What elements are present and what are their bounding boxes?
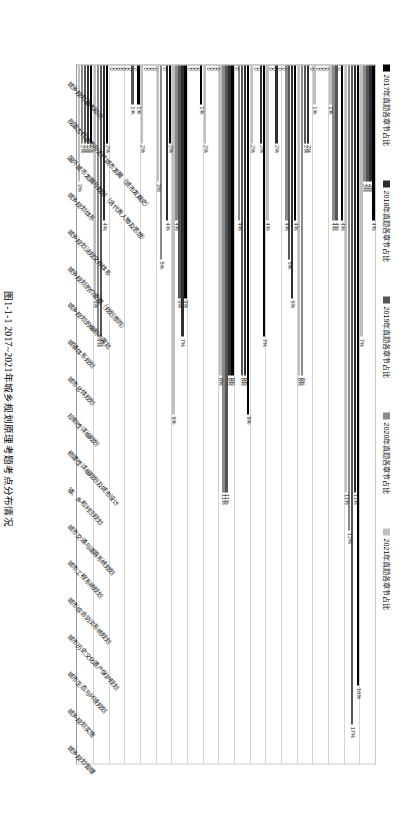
chart-legend: 2017年真题各章节占比2018年真题各章节占比2019年真题各章节占比2020… bbox=[376, 64, 398, 764]
bar bbox=[263, 65, 265, 336]
bar-group: 1%0000 bbox=[187, 65, 203, 763]
legend-swatch-icon bbox=[384, 296, 391, 303]
bar-row: 2% bbox=[204, 65, 206, 763]
legend-label: 2019年真题各章节占比 bbox=[382, 306, 392, 378]
bar-value-label: 2% bbox=[167, 145, 173, 153]
bar-row: 0 bbox=[197, 65, 199, 763]
bar-row: 0 bbox=[122, 65, 124, 763]
bar-group: 7%2%002% bbox=[250, 65, 266, 763]
rotated-figure-frame: 2017年真题各章节占比2018年真题各章节占比2019年真题各章节占比2020… bbox=[0, 0, 402, 817]
bar-value-label: 5% bbox=[287, 261, 293, 269]
bar-row: 7% bbox=[97, 65, 99, 763]
bar-row: 4% bbox=[294, 65, 296, 763]
bar-value-label: 8% bbox=[218, 377, 224, 385]
bar bbox=[313, 65, 315, 104]
bar-row: 4% bbox=[335, 65, 337, 763]
bar-value-label: 2% bbox=[258, 145, 264, 153]
bar-row: 0 bbox=[153, 65, 155, 763]
bar bbox=[348, 65, 350, 530]
bar-row: 3% bbox=[157, 65, 159, 763]
bar-row: 9% bbox=[172, 65, 174, 763]
legend-item: 2019年真题各章节占比 bbox=[382, 296, 392, 378]
legend-swatch-icon bbox=[384, 180, 391, 187]
bar-row: 0 bbox=[194, 65, 196, 763]
bar-value-label: 2% bbox=[140, 145, 146, 153]
bar bbox=[175, 65, 177, 220]
bar bbox=[363, 65, 365, 181]
bar bbox=[106, 65, 108, 143]
bar-value-label: 1% bbox=[328, 106, 334, 114]
bar-row: 11% bbox=[225, 65, 227, 763]
bar bbox=[166, 65, 168, 220]
bar-value-label: 2% bbox=[274, 145, 280, 153]
bar-row: 0 bbox=[147, 65, 149, 763]
bar-row: 5% bbox=[160, 65, 162, 763]
bar bbox=[169, 65, 171, 143]
bar-value-label: 4% bbox=[102, 222, 108, 230]
bar bbox=[298, 65, 300, 375]
bar bbox=[335, 65, 337, 220]
bar-value-label: 0 bbox=[161, 67, 167, 70]
bar-row: 12% bbox=[348, 65, 350, 763]
plot-area: 4%3%3%3%7%16%11%17%12%11%4%04%4%1%00001%… bbox=[76, 64, 376, 764]
bar-row: 7% bbox=[181, 65, 183, 763]
bar-value-label: 4% bbox=[174, 222, 180, 230]
bar-value-label: 17% bbox=[349, 726, 355, 737]
bar-row: 0 bbox=[191, 65, 193, 763]
bar-row: 8% bbox=[241, 65, 243, 763]
bar bbox=[225, 65, 227, 492]
category-axis-labels: 城乡规划基本知识我国古代城市与近代城市发展（城市发展史）国外城市发展与规划（含代… bbox=[6, 64, 76, 764]
bar-row: 0 bbox=[338, 65, 340, 763]
bar-row: 0 bbox=[316, 65, 318, 763]
bar-group: 02%2%8%8% bbox=[297, 65, 313, 763]
bar-row: 11% bbox=[354, 65, 356, 763]
bar-row: 2% bbox=[307, 65, 309, 763]
bar-group: 9%8%8%4%0 bbox=[234, 65, 250, 763]
bar bbox=[131, 65, 133, 104]
bar-value-label: 0 bbox=[337, 67, 343, 70]
bar-value-label: 9% bbox=[171, 416, 177, 424]
bar bbox=[369, 65, 371, 181]
bar-row: 0 bbox=[272, 65, 274, 763]
bar-value-label: 4% bbox=[340, 222, 346, 230]
bar-value-label: 8% bbox=[240, 377, 246, 385]
bar-row: 0 bbox=[254, 65, 256, 763]
bar-row: 8% bbox=[219, 65, 221, 763]
bar-group: 4%04%4%1% bbox=[328, 65, 344, 763]
bar bbox=[247, 65, 249, 414]
bar bbox=[329, 65, 331, 104]
bar-row: 0 bbox=[319, 65, 321, 763]
legend-item: 2020年真题各章节占比 bbox=[382, 412, 392, 494]
bar-row: 7% bbox=[100, 65, 102, 763]
bar-value-label: 6% bbox=[177, 300, 183, 308]
bar bbox=[181, 65, 183, 336]
bar-value-label: 6% bbox=[183, 300, 189, 308]
bar bbox=[332, 65, 334, 220]
bar-row: 0 bbox=[163, 65, 165, 763]
bar-value-label: 4% bbox=[164, 222, 170, 230]
bar-value-label: 2% bbox=[249, 145, 255, 153]
bar bbox=[222, 65, 224, 492]
bar bbox=[228, 65, 230, 375]
bar bbox=[241, 65, 243, 375]
bar-row: 11% bbox=[345, 65, 347, 763]
bar-row: 1% bbox=[329, 65, 331, 763]
bar-row: 6% bbox=[178, 65, 180, 763]
bar-row: 6% bbox=[291, 65, 293, 763]
bar bbox=[304, 65, 306, 143]
bar-group: 8%8%11%11%8% bbox=[218, 65, 234, 763]
bar-value-label: 7% bbox=[359, 338, 365, 346]
bar-group: 00001% bbox=[312, 65, 328, 763]
bar-group: 2%4%05%3% bbox=[156, 65, 172, 763]
bar bbox=[244, 65, 246, 375]
legend-swatch-icon bbox=[384, 528, 391, 535]
bar-row: 4% bbox=[266, 65, 268, 763]
bar bbox=[301, 65, 303, 375]
bar-row: 17% bbox=[351, 65, 353, 763]
bar bbox=[307, 65, 309, 143]
bar-row: 2% bbox=[169, 65, 171, 763]
bar-group: 16%11%17%12%11% bbox=[344, 65, 360, 763]
bar bbox=[141, 65, 143, 143]
bar-row: 0 bbox=[213, 65, 215, 763]
bar-value-label: 6% bbox=[290, 300, 296, 308]
